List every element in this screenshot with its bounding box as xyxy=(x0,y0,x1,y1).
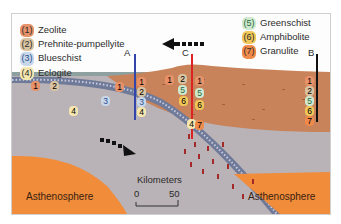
legend-item-blueschist: (3)Blueschist xyxy=(20,51,125,65)
facies-badge-1: 1 xyxy=(115,82,124,92)
scale-title: Kilometers xyxy=(137,174,182,185)
section-b-badge-2: 2 xyxy=(305,86,314,96)
section-a-badge-2: 2 xyxy=(137,87,146,97)
legend-item-greenschist: (5)Greenschist xyxy=(242,16,311,30)
facies-badge-2: 2 xyxy=(50,81,59,91)
section-c-badge-7: 7 xyxy=(195,120,204,130)
legend-item-prehnite-pumpellyite: (2)Prehnite-pumpellyite xyxy=(20,37,125,51)
facies-badge-1: 1 xyxy=(165,75,174,85)
section-a-badge-1: 1 xyxy=(137,77,146,87)
section-a-badge-4: 4 xyxy=(137,107,146,117)
facies-badge-3: 3 xyxy=(101,96,110,106)
asthenosphere-left-label: Asthenosphere xyxy=(26,191,93,202)
scale-start: 0 xyxy=(134,188,139,199)
legend-item-amphibolite: (6)Amphibolite xyxy=(242,30,311,44)
section-b-badge-1: 1 xyxy=(305,76,314,86)
facies-badge-2: 2 xyxy=(178,74,187,84)
asthenosphere-right-label: Asthenosphere xyxy=(248,191,315,202)
legend-left: (1)Zeolite (2)Prehnite-pumpellyite (3)Bl… xyxy=(20,23,125,80)
legend-right: (5)Greenschist (6)Amphibolite (7)Granuli… xyxy=(242,16,311,59)
facies-badge-5: 5 xyxy=(178,85,187,95)
section-b-badge-5: 5 xyxy=(305,96,314,106)
legend-item-eclogite: (4)Eclogite xyxy=(20,66,125,80)
section-b-badge-6: 6 xyxy=(305,106,314,116)
facies-badge-6: 6 xyxy=(179,96,188,106)
section-label-a: A xyxy=(124,47,130,58)
section-a-badge-3: 3 xyxy=(137,97,146,107)
legend-item-zeolite: (1)Zeolite xyxy=(20,23,125,37)
section-label-c: C xyxy=(182,47,189,58)
legend-item-granulite: (7)Granulite xyxy=(242,44,311,58)
diagram-frame: (1)Zeolite (2)Prehnite-pumpellyite (3)Bl… xyxy=(11,13,331,215)
facies-badge-1: 1 xyxy=(31,81,40,91)
section-c-badge-6: 6 xyxy=(195,100,204,110)
facies-badge-4: 4 xyxy=(69,106,78,116)
section-c-badge-5: 5 xyxy=(195,88,204,98)
section-label-b: B xyxy=(308,47,314,58)
section-c-badge-1: 1 xyxy=(195,76,204,86)
section-b-badge-7: 7 xyxy=(305,116,314,126)
scale-end: 50 xyxy=(169,188,180,199)
